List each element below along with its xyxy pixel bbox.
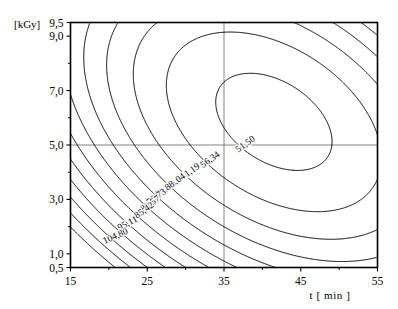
x-tick-label: 55 <box>372 275 384 287</box>
contour-line <box>71 95 237 268</box>
y-axis-unit-label: [kGy] <box>14 18 40 30</box>
contour-label-group: 104,80104,80 <box>101 226 129 246</box>
y-axis-tick-labels: 9,59,07,05,03,01,00,5 <box>49 17 64 275</box>
contour-line <box>361 23 377 36</box>
contour-line <box>166 32 377 212</box>
contour-line <box>133 23 377 240</box>
y-tick-label: 9,0 <box>49 30 64 43</box>
contour-label: 104,80 <box>101 226 129 246</box>
x-axis-title: t [ min ] <box>309 289 350 301</box>
contour-plot-svg: 9,59,07,05,03,01,00,5 1525354555 51,5051… <box>0 0 398 309</box>
x-tick-label: 15 <box>65 275 77 287</box>
y-tick-label: 0,5 <box>49 262 64 275</box>
contour-line <box>71 159 186 267</box>
x-tick-label: 35 <box>218 275 230 287</box>
contour-value-labels: 51,5051,5056,3456,3461,1961,1966,0466,04… <box>101 133 257 245</box>
x-axis-tick-labels: 1525354555 <box>65 275 384 287</box>
contour-plot-figure: 9,59,07,05,03,01,00,5 1525354555 51,5051… <box>0 0 398 309</box>
y-tick-label: 9,5 <box>49 17 64 30</box>
y-tick-label: 7,0 <box>49 85 64 98</box>
contour-line <box>333 23 378 57</box>
x-tick-label: 25 <box>142 275 154 287</box>
contour-line <box>216 73 332 170</box>
x-tick-label: 45 <box>295 275 307 287</box>
y-tick-label: 3,0 <box>49 193 64 206</box>
y-tick-label: 5,0 <box>49 139 64 152</box>
y-tick-label: 1,0 <box>49 248 64 261</box>
